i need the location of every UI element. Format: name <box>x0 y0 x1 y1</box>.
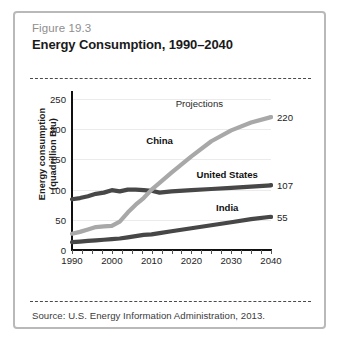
y-tick-label: 200 <box>50 124 66 135</box>
end-point-united-states <box>269 183 273 187</box>
x-axis-tick <box>72 250 73 254</box>
title-block: Figure 19.3 Energy Consumption, 1990–204… <box>32 22 233 52</box>
annotation-india: India <box>216 201 238 212</box>
y-tick-label: 150 <box>50 154 66 165</box>
annotation-united-states: United States <box>197 168 258 179</box>
x-axis-tick <box>122 250 123 254</box>
figure-number: Figure 19.3 <box>32 22 233 34</box>
figure-title: Energy Consumption, 1990–2040 <box>32 37 233 52</box>
divider-top <box>30 78 311 79</box>
x-tick-label: 2030 <box>221 255 242 266</box>
annotation-china: China <box>146 135 173 146</box>
y-tick-label: 250 <box>50 94 66 105</box>
x-axis-tick <box>102 250 103 254</box>
x-axis-tick <box>132 250 133 254</box>
figure-card: Figure 19.3 Energy Consumption, 1990–204… <box>13 11 326 329</box>
x-axis-tick <box>211 250 212 254</box>
x-tick-label: 2000 <box>101 255 122 266</box>
x-axis-tick <box>112 250 113 254</box>
x-tick-label: 2020 <box>181 255 202 266</box>
end-point-india <box>269 215 273 219</box>
x-axis-tick <box>241 250 242 254</box>
x-tick-label: 2010 <box>141 255 162 266</box>
x-tick-label: 2040 <box>260 255 281 266</box>
end-value-india: 55 <box>277 211 288 222</box>
end-value-china: 220 <box>277 112 293 123</box>
x-axis-tick <box>162 250 163 254</box>
divider-bottom <box>30 301 311 302</box>
line-india <box>72 217 271 242</box>
x-axis-tick <box>221 250 222 254</box>
y-tick-label: 50 <box>55 214 66 225</box>
chart-area: Energy consumption (quadrillion Btu) 050… <box>15 85 328 297</box>
x-axis-tick <box>142 250 143 254</box>
end-value-united-states: 107 <box>277 180 293 191</box>
x-axis-tick <box>231 250 232 254</box>
x-axis-tick <box>92 250 93 254</box>
x-axis-tick <box>261 250 262 254</box>
y-tick-label: 0 <box>61 245 66 256</box>
x-axis-tick <box>181 250 182 254</box>
line-united-states <box>72 185 271 199</box>
annotation-projections: Projections <box>176 98 223 109</box>
x-axis-tick <box>201 250 202 254</box>
x-axis-tick <box>172 250 173 254</box>
end-point-china <box>269 115 273 119</box>
plot-area: 050100150200250 199020002010202020302040… <box>72 99 271 250</box>
x-axis-tick <box>191 250 192 254</box>
x-axis-tick <box>251 250 252 254</box>
x-axis-tick <box>152 250 153 254</box>
y-tick-label: 100 <box>50 184 66 195</box>
x-axis-tick <box>271 250 272 254</box>
source-note: Source: U.S. Energy Information Administ… <box>32 310 265 321</box>
x-axis-tick <box>82 250 83 254</box>
x-tick-label: 1990 <box>61 255 82 266</box>
